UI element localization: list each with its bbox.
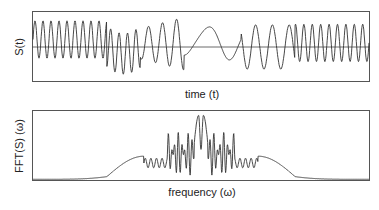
frequency-domain-plot: frequency (ω) FFT(S) (ω): [13, 111, 370, 199]
top-x-axis-label: time (t): [185, 88, 219, 100]
bottom-axes-frame: [33, 111, 370, 181]
spectrum-curve: [33, 115, 369, 179]
top-y-axis-label: S(t): [13, 38, 25, 56]
bottom-x-axis-label: frequency (ω): [168, 186, 235, 198]
time-domain-plot: time (t) S(t): [13, 12, 370, 101]
figure: time (t) S(t) frequency (ω) FFT(S) (ω): [0, 0, 379, 210]
bottom-y-axis-label: FFT(S) (ω): [13, 119, 25, 173]
